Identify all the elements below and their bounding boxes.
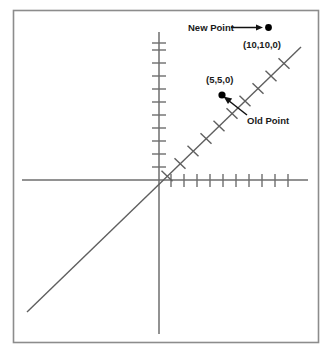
new-point-marker xyxy=(265,24,272,31)
new-point-label: New Point xyxy=(188,22,235,33)
old-point-label: Old Point xyxy=(247,115,290,126)
figure-container: New Point (10,10,0) (5,5,0) Old Point xyxy=(0,0,331,352)
old-point-marker xyxy=(218,91,225,98)
coordinate-axes-figure: New Point (10,10,0) (5,5,0) Old Point xyxy=(0,0,331,352)
new-point-coords-label: (10,10,0) xyxy=(243,39,281,50)
old-point-coords-label: (5,5,0) xyxy=(206,74,233,85)
figure-border xyxy=(14,11,319,343)
